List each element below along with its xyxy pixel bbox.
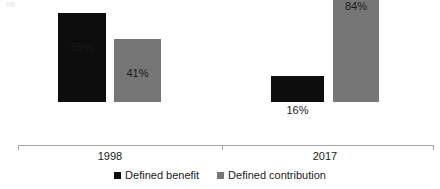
legend-label-defined-contribution: Defined contribution [228, 169, 326, 182]
value-label-2017-defined-contribution: 84% [333, 0, 379, 12]
value-label-1998-defined-contribution: 41% [114, 67, 161, 79]
bar-1998-defined-benefit [58, 13, 106, 102]
x-axis-label-1998: 1998 [70, 150, 150, 163]
plot-area: 59% 41% 16% 84% 1998 2017 [0, 0, 440, 146]
legend-label-defined-benefit: Defined benefit [125, 169, 199, 182]
chart-legend: Defined benefit Defined contribution [0, 169, 440, 182]
legend-item-defined-benefit: Defined benefit [114, 169, 199, 182]
x-axis-tick-start [18, 145, 19, 150]
bar-chart: 59% 41% 16% 84% 1998 2017 Defined benefi… [0, 0, 440, 189]
x-axis-line [18, 145, 434, 146]
bar-2017-defined-benefit [271, 76, 324, 102]
legend-swatch-icon-defined-contribution [217, 172, 224, 179]
legend-item-defined-contribution: Defined contribution [217, 169, 326, 182]
x-axis-tick-end [433, 145, 434, 150]
bar-2017-defined-contribution [333, 0, 379, 102]
value-label-2017-defined-benefit: 16% [271, 104, 324, 116]
x-axis-tick-middle [222, 145, 223, 150]
x-axis-label-2017: 2017 [285, 150, 365, 163]
value-label-1998-defined-benefit: 59% [58, 41, 106, 53]
legend-swatch-icon-defined-benefit [114, 172, 121, 179]
